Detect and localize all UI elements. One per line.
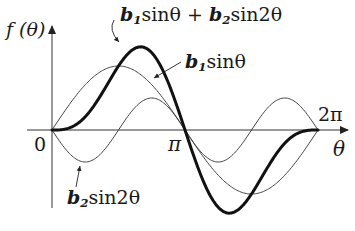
arrow-fundamental-label: [154, 62, 181, 78]
x-axis-label: θ: [333, 139, 345, 159]
tick-pi: π: [168, 134, 181, 154]
fourier-diagram: [0, 0, 355, 231]
label-fundamental: b1sinθ: [185, 52, 246, 74]
y-axis-label: f (θ): [6, 20, 45, 39]
tick-origin: 0: [34, 135, 46, 154]
arrow-sum-label: [112, 20, 119, 42]
arrow-harmonic-label: [76, 166, 80, 187]
label-harmonic: b2sin2θ: [67, 188, 140, 210]
label-sum: b1sinθ + b2sin2θ: [120, 5, 282, 27]
tick-two-pi: 2π: [318, 105, 343, 124]
